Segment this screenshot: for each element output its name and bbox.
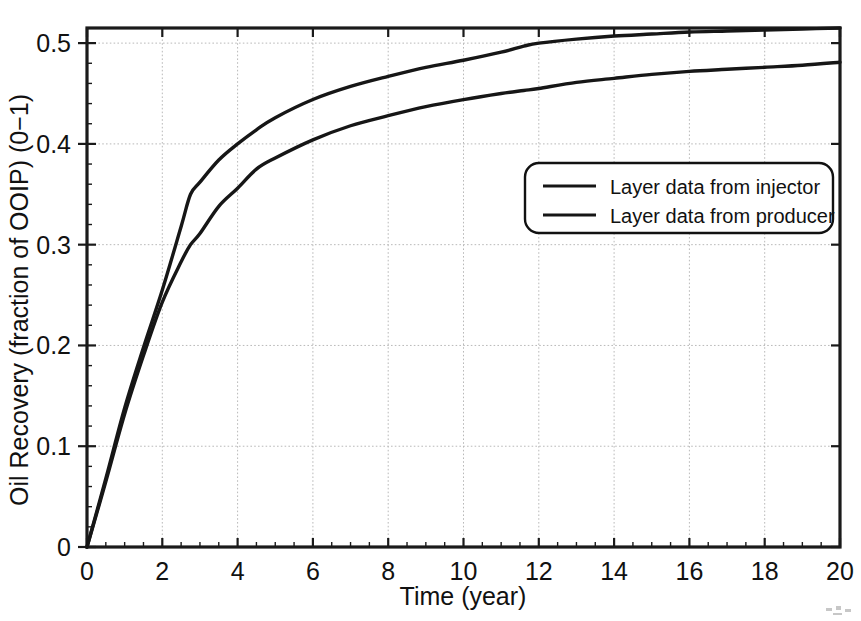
x-tick-label: 6 bbox=[306, 557, 320, 585]
axis-ticks bbox=[78, 28, 840, 547]
x-tick-label: 14 bbox=[600, 557, 628, 585]
y-tick-label: 0.2 bbox=[36, 331, 71, 359]
y-tick-label: 0.4 bbox=[36, 130, 71, 158]
y-axis-title: Oil Recovery (fraction of OOIP) (0−1) bbox=[5, 94, 33, 506]
y-tick-label: 0.5 bbox=[36, 29, 71, 57]
x-tick-label: 8 bbox=[381, 557, 395, 585]
x-tick-label: 10 bbox=[450, 557, 478, 585]
x-tick-label: 2 bbox=[155, 557, 169, 585]
x-tick-label: 12 bbox=[525, 557, 553, 585]
chart-legend: Layer data from injector Layer data from… bbox=[525, 163, 835, 233]
x-tick-label: 16 bbox=[675, 557, 703, 585]
y-tick-label: 0.1 bbox=[36, 432, 71, 460]
chart-figure: 02468101214161820 00.10.20.30.40.5 Time … bbox=[0, 0, 861, 621]
x-axis-title: Time (year) bbox=[400, 582, 527, 610]
x-tick-label: 20 bbox=[826, 557, 854, 585]
y-tick-labels: 00.10.20.30.40.5 bbox=[36, 29, 71, 561]
x-tick-label: 0 bbox=[80, 557, 94, 585]
grid-lines bbox=[87, 28, 840, 547]
x-tick-labels: 02468101214161820 bbox=[80, 557, 854, 585]
x-tick-label: 18 bbox=[751, 557, 779, 585]
legend-label-injector: Layer data from injector bbox=[610, 176, 820, 198]
oil-recovery-line-chart: 02468101214161820 00.10.20.30.40.5 Time … bbox=[0, 0, 861, 621]
y-tick-label: 0.3 bbox=[36, 231, 71, 259]
y-tick-label: 0 bbox=[57, 533, 71, 561]
x-tick-label: 4 bbox=[231, 557, 245, 585]
scan-speckle bbox=[826, 606, 851, 615]
legend-label-producer: Layer data from producer bbox=[610, 205, 835, 227]
